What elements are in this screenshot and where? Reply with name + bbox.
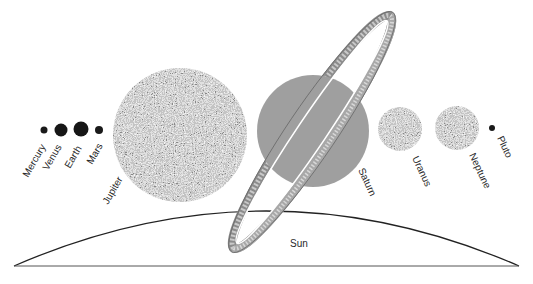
saturn-label: Saturn [356,166,378,197]
mars-label: Mars [84,141,105,166]
jupiter-label: Jupiter [100,174,125,206]
planet-mercury: Mercury [20,127,48,180]
planet-neptune: Neptune [435,106,493,191]
planet-pluto: Pluto [489,125,515,160]
solar-system-diagram: Sun Mercury Venus Earth Mars Jupiter Sat… [0,0,533,284]
uranus-label: Uranus [410,154,434,188]
planet-uranus: Uranus [378,107,434,188]
planet-jupiter: Jupiter [100,68,247,206]
sun-label: Sun [290,238,308,249]
neptune-label: Neptune [467,151,493,190]
pluto-label: Pluto [495,134,515,160]
earth-label: Earth [62,144,83,170]
